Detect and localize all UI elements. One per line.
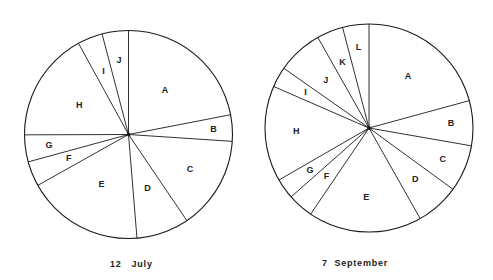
slice-label-f: F [324,171,330,181]
slice-label-a: A [162,85,169,95]
slice-label-a: A [405,71,412,81]
slice-label-l: L [356,42,362,52]
pie-center [127,133,131,137]
slice-label-i: I [304,87,307,97]
slice-label-b: B [448,118,455,128]
figure: ABCDEFGHIJ ABCDEFGHIJKL 12 July 7 Septem… [0,0,493,280]
slice-label-j: J [323,75,328,85]
slice-label-i: I [102,66,105,76]
slice-label-j: J [116,55,121,65]
caption-right: 7 September [322,258,388,268]
slice-label-g: G [46,140,53,150]
slice-label-e: E [99,179,105,189]
slice-label-e: E [363,192,369,202]
slice-label-d: D [144,183,151,193]
caption-left: 12 July [110,259,153,269]
slice-label-g: G [306,165,313,175]
pie-chart-7-september: ABCDEFGHIJKL [265,24,473,232]
pie-center [367,126,371,130]
pie-chart-12-july: ABCDEFGHIJ [25,31,233,239]
slice-label-c: C [187,164,194,174]
slice-label-c: C [439,154,446,164]
slice-label-b: B [210,124,217,134]
slice-label-h: H [76,100,83,110]
slice-label-d: D [412,174,419,184]
slice-label-k: K [339,57,346,67]
slice-label-f: F [66,153,72,163]
pie-charts: ABCDEFGHIJ ABCDEFGHIJKL [0,0,493,280]
slice-label-h: H [293,126,300,136]
